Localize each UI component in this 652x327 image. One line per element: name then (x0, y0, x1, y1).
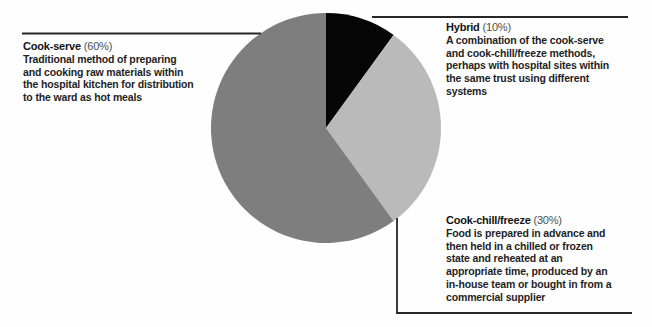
annotation-cook-chill: Cook-chill/freeze (30%) Food is prepared… (446, 214, 611, 303)
annotation-hybrid-description: A combination of the cook-serveand cook-… (446, 34, 609, 98)
slice-name: Cook-chill/freeze (446, 214, 531, 226)
annotation-cook-serve-description: Traditional method of preparingand cooki… (23, 53, 194, 104)
pie-chart-figure: Cook-serve (60%) Traditional method of p… (0, 0, 652, 327)
annotation-cook-chill-description: Food is prepared in advance andthen held… (446, 227, 611, 303)
annotation-hybrid: Hybrid (10%) A combination of the cook-s… (446, 21, 609, 98)
slice-percentage: (60%) (84, 40, 112, 52)
slice-percentage: (30%) (533, 214, 561, 226)
slice-percentage: (10%) (483, 21, 511, 33)
annotation-cook-chill-title: Cook-chill/freeze (30%) (446, 214, 611, 227)
annotation-hybrid-title: Hybrid (10%) (446, 21, 609, 34)
pie-slices (211, 13, 441, 243)
annotation-cook-serve-title: Cook-serve (60%) (23, 40, 194, 53)
slice-name: Cook-serve (23, 40, 81, 52)
annotation-cook-serve: Cook-serve (60%) Traditional method of p… (23, 40, 194, 104)
slice-name: Hybrid (446, 21, 480, 33)
